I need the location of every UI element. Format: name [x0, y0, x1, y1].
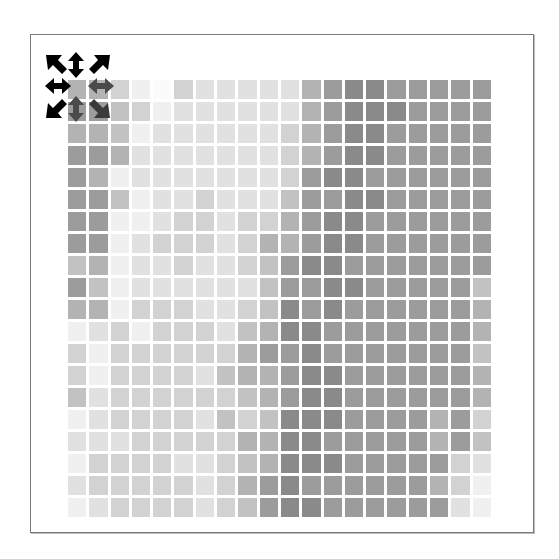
tile-r11-c11[interactable]: [302, 322, 320, 341]
tile-r0-c7[interactable]: [217, 80, 235, 99]
tile-r12-c8[interactable]: [238, 344, 256, 363]
tile-r8-c19[interactable]: [473, 256, 491, 275]
tile-r2-c13[interactable]: [345, 124, 363, 143]
tile-r5-c19[interactable]: [473, 190, 491, 209]
tile-r11-c3[interactable]: [132, 322, 150, 341]
tile-r3-c13[interactable]: [345, 146, 363, 165]
tile-r18-c7[interactable]: [217, 476, 235, 495]
tile-r8-c4[interactable]: [153, 256, 171, 275]
tile-r0-c11[interactable]: [302, 80, 320, 99]
tile-r2-c12[interactable]: [324, 124, 342, 143]
tile-r6-c3[interactable]: [132, 212, 150, 231]
tile-r4-c16[interactable]: [409, 168, 427, 187]
tile-r1-c0[interactable]: [68, 102, 86, 121]
tile-r16-c14[interactable]: [366, 432, 384, 451]
tile-r15-c11[interactable]: [302, 410, 320, 429]
tile-r5-c18[interactable]: [451, 190, 469, 209]
tile-r9-c4[interactable]: [153, 278, 171, 297]
tile-r12-c9[interactable]: [260, 344, 278, 363]
tile-r8-c2[interactable]: [111, 256, 129, 275]
tile-r10-c0[interactable]: [68, 300, 86, 319]
tile-r10-c19[interactable]: [473, 300, 491, 319]
tile-r11-c5[interactable]: [174, 322, 192, 341]
tile-r4-c8[interactable]: [238, 168, 256, 187]
tile-r14-c2[interactable]: [111, 388, 129, 407]
tile-r7-c7[interactable]: [217, 234, 235, 253]
tile-r13-c19[interactable]: [473, 366, 491, 385]
tile-r6-c5[interactable]: [174, 212, 192, 231]
tile-r17-c6[interactable]: [196, 454, 214, 473]
tile-r9-c6[interactable]: [196, 278, 214, 297]
tile-r2-c2[interactable]: [111, 124, 129, 143]
tile-r13-c10[interactable]: [281, 366, 299, 385]
tile-r5-c16[interactable]: [409, 190, 427, 209]
tile-r9-c15[interactable]: [387, 278, 405, 297]
tile-r12-c19[interactable]: [473, 344, 491, 363]
tile-r4-c14[interactable]: [366, 168, 384, 187]
tile-r3-c17[interactable]: [430, 146, 448, 165]
tile-r1-c1[interactable]: [89, 102, 107, 121]
tile-r6-c2[interactable]: [111, 212, 129, 231]
tile-r14-c5[interactable]: [174, 388, 192, 407]
tile-r8-c18[interactable]: [451, 256, 469, 275]
tile-r4-c18[interactable]: [451, 168, 469, 187]
tile-r9-c8[interactable]: [238, 278, 256, 297]
tile-r4-c17[interactable]: [430, 168, 448, 187]
tile-r19-c2[interactable]: [111, 498, 129, 517]
tile-r16-c15[interactable]: [387, 432, 405, 451]
tile-r5-c11[interactable]: [302, 190, 320, 209]
tile-r16-c2[interactable]: [111, 432, 129, 451]
tile-r5-c1[interactable]: [89, 190, 107, 209]
tile-r7-c11[interactable]: [302, 234, 320, 253]
tile-r16-c6[interactable]: [196, 432, 214, 451]
tile-r14-c8[interactable]: [238, 388, 256, 407]
tile-r15-c10[interactable]: [281, 410, 299, 429]
tile-r8-c14[interactable]: [366, 256, 384, 275]
tile-r4-c5[interactable]: [174, 168, 192, 187]
tile-r1-c19[interactable]: [473, 102, 491, 121]
tile-r1-c10[interactable]: [281, 102, 299, 121]
tile-r8-c13[interactable]: [345, 256, 363, 275]
tile-r12-c5[interactable]: [174, 344, 192, 363]
tile-r2-c16[interactable]: [409, 124, 427, 143]
tile-r9-c0[interactable]: [68, 278, 86, 297]
tile-r15-c6[interactable]: [196, 410, 214, 429]
tile-r10-c12[interactable]: [324, 300, 342, 319]
tile-r8-c11[interactable]: [302, 256, 320, 275]
tile-r10-c13[interactable]: [345, 300, 363, 319]
tile-r9-c16[interactable]: [409, 278, 427, 297]
tile-r19-c18[interactable]: [451, 498, 469, 517]
tile-r2-c17[interactable]: [430, 124, 448, 143]
tile-r1-c16[interactable]: [409, 102, 427, 121]
tile-r15-c7[interactable]: [217, 410, 235, 429]
tile-r8-c5[interactable]: [174, 256, 192, 275]
tile-r1-c5[interactable]: [174, 102, 192, 121]
tile-r13-c1[interactable]: [89, 366, 107, 385]
tile-r0-c0[interactable]: [68, 80, 86, 99]
tile-r11-c14[interactable]: [366, 322, 384, 341]
tile-r3-c6[interactable]: [196, 146, 214, 165]
tile-r14-c15[interactable]: [387, 388, 405, 407]
tile-r6-c19[interactable]: [473, 212, 491, 231]
tile-r14-c17[interactable]: [430, 388, 448, 407]
tile-r13-c11[interactable]: [302, 366, 320, 385]
tile-r4-c19[interactable]: [473, 168, 491, 187]
tile-r7-c10[interactable]: [281, 234, 299, 253]
tile-r1-c9[interactable]: [260, 102, 278, 121]
tile-r5-c14[interactable]: [366, 190, 384, 209]
tile-r7-c9[interactable]: [260, 234, 278, 253]
tile-r1-c2[interactable]: [111, 102, 129, 121]
tile-r3-c2[interactable]: [111, 146, 129, 165]
tile-r4-c12[interactable]: [324, 168, 342, 187]
tile-r12-c3[interactable]: [132, 344, 150, 363]
tile-grid[interactable]: [68, 80, 491, 517]
tile-r4-c3[interactable]: [132, 168, 150, 187]
tile-r7-c3[interactable]: [132, 234, 150, 253]
tile-r3-c5[interactable]: [174, 146, 192, 165]
tile-r13-c3[interactable]: [132, 366, 150, 385]
tile-r16-c1[interactable]: [89, 432, 107, 451]
tile-r4-c4[interactable]: [153, 168, 171, 187]
tile-r14-c10[interactable]: [281, 388, 299, 407]
tile-r8-c1[interactable]: [89, 256, 107, 275]
tile-r16-c3[interactable]: [132, 432, 150, 451]
